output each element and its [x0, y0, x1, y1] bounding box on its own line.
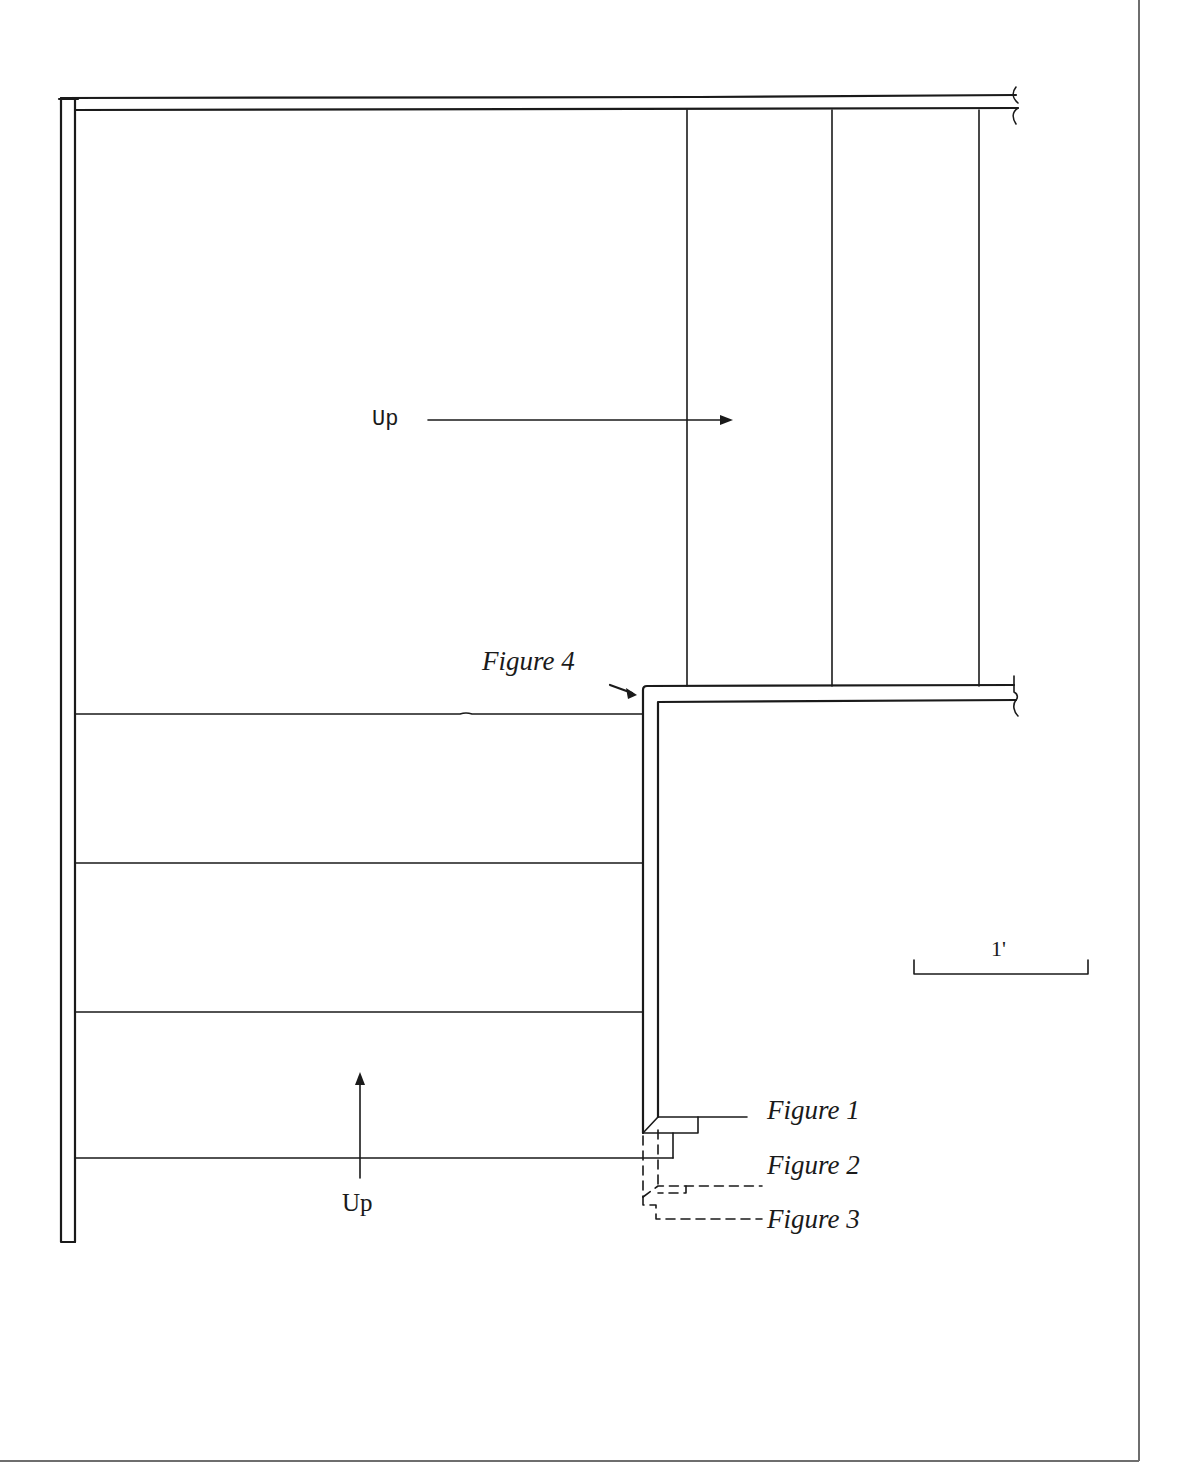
- figure-4-label: Figure 4: [482, 648, 575, 675]
- lower-flight-treads: [75, 713, 673, 1158]
- figure-2-detail: [643, 1130, 762, 1197]
- up-label-lower: Up: [342, 1190, 373, 1215]
- up-label-upper: Up: [372, 409, 398, 431]
- figure-3-detail: [643, 1197, 762, 1219]
- figure-3-label: Figure 3: [767, 1206, 860, 1233]
- stair-plan-drawing: Up Up Figure 4 Figure 1 Figure 2 Figure …: [0, 0, 1193, 1481]
- up-arrow-lower: [355, 1072, 365, 1178]
- upper-flight-risers: [687, 110, 979, 686]
- figure-4-pointer: [610, 685, 637, 699]
- scale-bar: [914, 960, 1088, 974]
- landing-wall: [643, 676, 1018, 1133]
- figure-1-label: Figure 1: [767, 1097, 860, 1124]
- page-border: [0, 0, 1139, 1461]
- drawing-lines: [0, 0, 1193, 1481]
- top-wall: [61, 87, 1018, 124]
- figure-2-label: Figure 2: [767, 1152, 860, 1179]
- left-wall: [59, 98, 78, 1242]
- scale-label: 1': [991, 938, 1006, 960]
